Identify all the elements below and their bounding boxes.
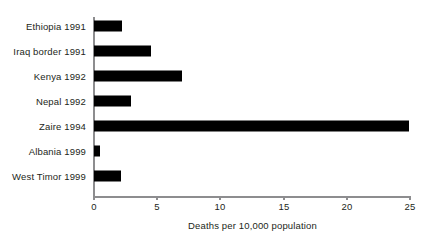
category-label: Ethiopia 1991 — [26, 21, 86, 32]
x-tick-label: 5 — [154, 201, 159, 212]
x-tick-10 — [219, 196, 221, 200]
bar-iraq-border-1991 — [94, 46, 151, 57]
category-label: Albania 1999 — [29, 145, 86, 156]
x-tick-25 — [409, 196, 411, 200]
x-tick-label: 20 — [342, 201, 353, 212]
x-tick-label: 10 — [215, 201, 226, 212]
category-label: West Timor 1999 — [12, 170, 86, 181]
bar-west-timor-1999 — [94, 170, 121, 181]
x-tick-5 — [156, 196, 158, 200]
x-tick-20 — [346, 196, 348, 200]
x-axis-line — [93, 196, 410, 198]
category-label: Iraq border 1991 — [13, 46, 86, 57]
bar-row: Kenya 1992 — [0, 64, 426, 89]
x-tick-15 — [283, 196, 285, 200]
bar-albania-1999 — [94, 145, 100, 156]
category-label: Kenya 1992 — [34, 71, 86, 82]
bar-row: Albania 1999 — [0, 139, 426, 164]
bar-row: Ethiopia 1991 — [0, 14, 426, 39]
bar-nepal-1992 — [94, 96, 131, 107]
x-tick-label: 25 — [405, 201, 416, 212]
x-tick-label: 0 — [91, 201, 96, 212]
bar-chart-figure: Ethiopia 1991 Iraq border 1991 Kenya 199… — [0, 0, 426, 251]
plot-area: Ethiopia 1991 Iraq border 1991 Kenya 199… — [0, 0, 426, 251]
bar-row: Zaire 1994 — [0, 114, 426, 139]
bar-row: Iraq border 1991 — [0, 39, 426, 64]
x-axis-title: Deaths per 10,000 population — [94, 220, 411, 231]
x-tick-label: 15 — [279, 201, 290, 212]
bar-row: Nepal 1992 — [0, 89, 426, 114]
bar-ethiopia-1991 — [94, 21, 122, 32]
bar-zaire-1994 — [94, 121, 409, 132]
bar-row: West Timor 1999 — [0, 163, 426, 188]
category-label: Zaire 1994 — [39, 121, 86, 132]
bar-kenya-1992 — [94, 71, 182, 82]
x-tick-0 — [93, 196, 95, 200]
category-label: Nepal 1992 — [36, 96, 86, 107]
